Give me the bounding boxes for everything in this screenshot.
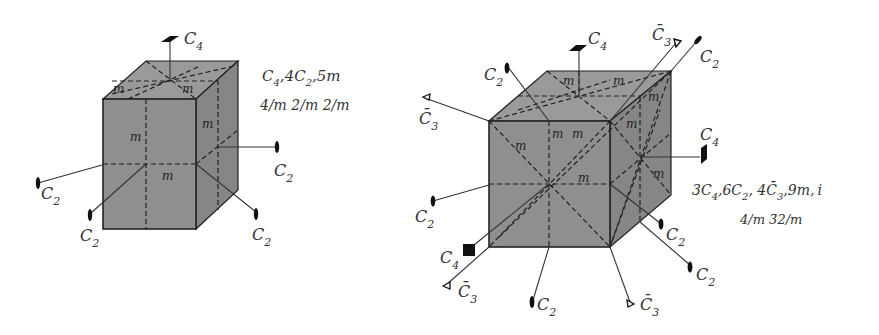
axis-label-c2: C2 <box>696 265 715 289</box>
mirror-label: m <box>563 74 574 88</box>
axis-label-c4: C4 <box>184 29 203 53</box>
square-symbol-icon <box>463 244 475 256</box>
mirror-label: m <box>182 82 193 96</box>
ellipse-symbol-icon <box>688 262 693 273</box>
axis-label-c2: C2 <box>252 225 271 249</box>
mirror-label: m <box>613 74 624 88</box>
ellipse-symbol-icon <box>431 196 436 207</box>
axis-label-c4: C4 <box>588 29 607 53</box>
ellipse-symbol-icon <box>530 296 535 308</box>
axis-label-c3bar: C̄3 <box>458 280 477 306</box>
axis-label-c2: C2 <box>80 226 99 250</box>
square-symbol-icon <box>161 36 179 42</box>
c2-axis-left <box>433 185 489 201</box>
axis-label-c2: C2 <box>415 207 434 231</box>
c2-axis-top-right <box>671 41 697 71</box>
ellipse-symbol-icon <box>275 141 279 153</box>
ellipse-symbol-icon <box>254 208 258 220</box>
ellipse-symbol-icon <box>659 219 664 230</box>
square-symbol-icon <box>701 144 707 164</box>
mirror-label: m <box>113 82 124 96</box>
axis-label-c2: C2 <box>700 47 719 71</box>
mirror-label: m <box>202 117 213 131</box>
mirror-label: m <box>515 139 526 153</box>
mirror-label: m <box>552 127 563 141</box>
prism-front-face <box>103 99 196 229</box>
triangle-symbol-icon <box>423 94 430 100</box>
c3bar-axis-bottom <box>610 247 630 302</box>
ellipse-symbol-icon <box>505 63 510 74</box>
symmetry-elements-text: 3C4,6C2, 4C̄3,9m,i <box>692 181 822 202</box>
ellipse-symbol-icon <box>36 177 40 189</box>
cube-figure: m m m m m m m m m C4 C̄3 C2 C2 C̄3 C4 <box>415 23 822 319</box>
mirror-label: m <box>572 127 583 141</box>
triangle-symbol-icon <box>443 282 450 289</box>
axis-label-c3bar: C̄3 <box>652 23 671 49</box>
axis-label-c3bar: C̄3 <box>419 107 438 133</box>
c2-axis-left <box>38 165 102 183</box>
symmetry-elements-text: C4,4C2,5m <box>262 67 341 88</box>
tetragonal-prism-figure: m m m m m C4 C2 C2 C2 C2 C4,4C2,5m 4/m 2… <box>36 29 350 250</box>
mirror-label: m <box>162 169 173 183</box>
mirror-label: m <box>653 167 664 181</box>
mirror-label: m <box>130 130 141 144</box>
triangle-symbol-icon <box>627 300 634 307</box>
axis-label-c3bar: C̄3 <box>640 293 659 319</box>
point-group-text: 4/m 3̄2/m <box>739 212 802 227</box>
axis-label-c4: C4 <box>700 125 719 149</box>
axis-label-c4: C4 <box>440 248 459 272</box>
ellipse-symbol-icon <box>88 209 92 221</box>
axis-label-c2: C2 <box>537 295 556 319</box>
square-symbol-icon <box>569 45 587 51</box>
c2-axis-bottom <box>533 247 549 300</box>
mirror-label: m <box>648 90 659 104</box>
axis-label-c2: C2 <box>41 184 60 208</box>
point-group-text: 4/m 2/m 2/m <box>259 97 350 113</box>
c3bar-axis-left <box>425 98 489 121</box>
axis-label-c2: C2 <box>666 225 685 249</box>
mirror-label: m <box>626 117 637 131</box>
axis-label-c2: C2 <box>274 161 293 185</box>
symmetry-diagram: m m m m m C4 C2 C2 C2 C2 C4,4C2,5m 4/m 2… <box>0 0 879 335</box>
axis-label-c2: C2 <box>484 65 503 89</box>
mirror-label: m <box>578 171 589 185</box>
triangle-symbol-icon <box>674 39 681 47</box>
